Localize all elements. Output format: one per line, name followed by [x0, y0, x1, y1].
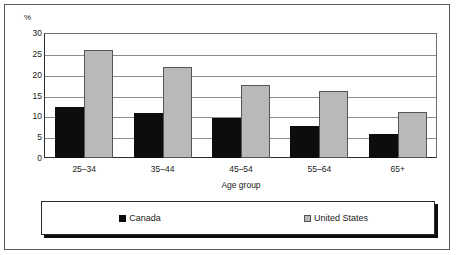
bar-canada-65-plus[interactable]	[369, 134, 398, 158]
bar-group-35-44	[123, 33, 201, 158]
bar-united-states-55-64[interactable]	[319, 91, 348, 159]
bar-groups	[45, 33, 437, 158]
gray-square-swatch-icon	[304, 215, 311, 222]
x-tick-label-25-34: 25–34	[45, 164, 123, 174]
y-tick-label-15: 15	[20, 91, 42, 100]
y-tick-label-20: 20	[20, 70, 42, 79]
y-axis-unit-label: %	[24, 13, 31, 23]
y-tick-label-0: 0	[20, 154, 42, 163]
y-tick-label-5: 5	[20, 133, 42, 142]
x-tick-label-45-54: 45–54	[202, 164, 280, 174]
y-tick-label-30: 30	[20, 29, 42, 38]
bar-united-states-65-plus[interactable]	[398, 112, 427, 158]
y-tick-label-25: 25	[20, 49, 42, 58]
bar-canada-25-34[interactable]	[55, 107, 84, 158]
y-axis-tick-labels: 30 25 20 15 10 5 0	[16, 33, 42, 158]
legend-label-canada: Canada	[129, 213, 161, 223]
bar-canada-55-64[interactable]	[290, 126, 319, 158]
bar-group-25-34	[45, 33, 123, 158]
bar-united-states-35-44[interactable]	[163, 67, 192, 158]
bar-canada-45-54[interactable]	[212, 118, 241, 158]
x-tick-label-55-64: 55–64	[280, 164, 358, 174]
legend-label-united-states: United States	[314, 213, 368, 223]
bar-united-states-25-34[interactable]	[84, 50, 113, 158]
bar-group-55-64	[280, 33, 358, 158]
x-axis-tick-labels: 25–34 35–44 45–54 55–64 65+	[45, 164, 437, 174]
black-square-swatch-icon	[119, 215, 126, 222]
bar-group-65-plus	[359, 33, 437, 158]
bar-group-45-54	[202, 33, 280, 158]
x-tick-label-35-44: 35–44	[123, 164, 201, 174]
legend: Canada United States	[41, 201, 435, 235]
bar-canada-35-44[interactable]	[134, 113, 163, 158]
x-axis-title: Age group	[45, 180, 437, 190]
x-tick-label-65-plus: 65+	[359, 164, 437, 174]
bar-chart: % 30 25 20 15 10 5 0	[0, 0, 456, 255]
y-tick-label-10: 10	[20, 112, 42, 121]
chart-screenshot: % 30 25 20 15 10 5 0	[0, 0, 456, 255]
bar-united-states-45-54[interactable]	[241, 85, 270, 158]
legend-item-canada[interactable]: Canada	[42, 213, 238, 223]
legend-item-united-states[interactable]: United States	[238, 213, 434, 223]
